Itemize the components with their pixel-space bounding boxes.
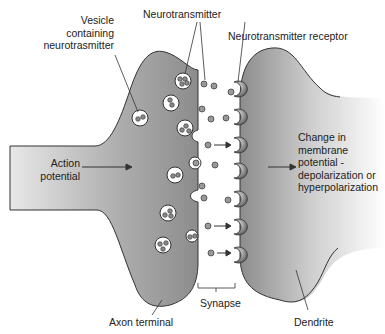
dendrite-label: Dendrite bbox=[294, 316, 334, 329]
change-label: Change in membrane potential - depolariz… bbox=[298, 131, 378, 194]
action-potential-line: potential bbox=[20, 170, 80, 183]
vesicle-label-line: neurotrasmitter bbox=[20, 39, 114, 52]
receptor-label: Neurotransmitter receptor bbox=[228, 30, 348, 43]
change-label-line: Change in bbox=[298, 131, 378, 144]
vesicle-label-line: containing bbox=[20, 27, 114, 40]
change-label-line: hyperpolarization bbox=[298, 181, 378, 194]
vesicle-label: Vesicle containing neurotrasmitter bbox=[20, 14, 114, 52]
axon-terminal-label: Axon terminal bbox=[109, 316, 173, 329]
action-potential-line: Action bbox=[20, 157, 80, 170]
action-potential-label: Action potential bbox=[20, 157, 80, 182]
vesicle-label-line: Vesicle bbox=[20, 14, 114, 27]
change-label-line: depolarization or bbox=[298, 169, 378, 182]
synapse-label: Synapse bbox=[200, 297, 241, 310]
neurotransmitter-label: Neurotransmitter bbox=[143, 8, 221, 21]
change-label-line: membrane bbox=[298, 144, 378, 157]
change-label-line: potential - bbox=[298, 156, 378, 169]
